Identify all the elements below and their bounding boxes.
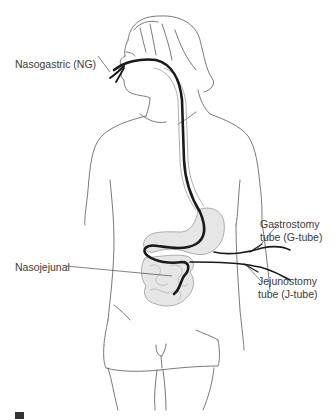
label-nasogastric: Nasogastric (NG): [15, 58, 96, 70]
label-jejunostomy-line1: Jejunostomy: [258, 275, 317, 287]
label-nasojejunal: Nasojejunal: [15, 261, 70, 273]
label-jejunostomy-line2: tube (J-tube): [258, 288, 318, 300]
label-gastrostomy-line2: tube (G-tube): [260, 231, 322, 243]
label-gastrostomy-line1: Gastrostomy: [260, 218, 320, 230]
figure-marker-square: [15, 412, 24, 419]
feeding-tube-diagram: Nasogastric (NG) Gastrostomy tube (G-tub…: [0, 0, 335, 419]
